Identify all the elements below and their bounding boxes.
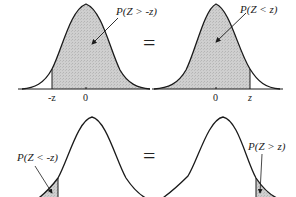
annotation-p-z-less-neg-z: P(Z < -z) [16,151,58,164]
normal-symmetry-diagram: -z 0 P(Z > -z) = 0 z P(Z < z) P(Z < -z) [0,0,296,197]
tick-label-zero: 0 [213,92,218,103]
equals-sign-top: = [143,30,155,55]
top-left-panel: -z 0 P(Z > -z) [18,4,157,103]
equals-sign-bottom: = [143,143,155,168]
bottom-left-panel: P(Z < -z) [16,117,150,197]
annotation-pointer [35,166,52,193]
tick-label-zero: 0 [83,92,88,103]
annotation-p-z-less-z: P(Z < z) [239,3,278,16]
bell-curve [160,117,282,197]
bottom-right-panel: P(Z > z) [160,117,286,197]
tick-label-neg-z: -z [48,92,56,103]
tick-label-z: z [247,92,252,103]
top-right-panel: 0 z P(Z < z) [152,3,283,103]
annotation-p-z-greater-z: P(Z > z) [247,140,286,153]
shaded-area-left-of-z [156,4,250,89]
annotation-p-z-greater-neg-z: P(Z > -z) [115,5,157,18]
